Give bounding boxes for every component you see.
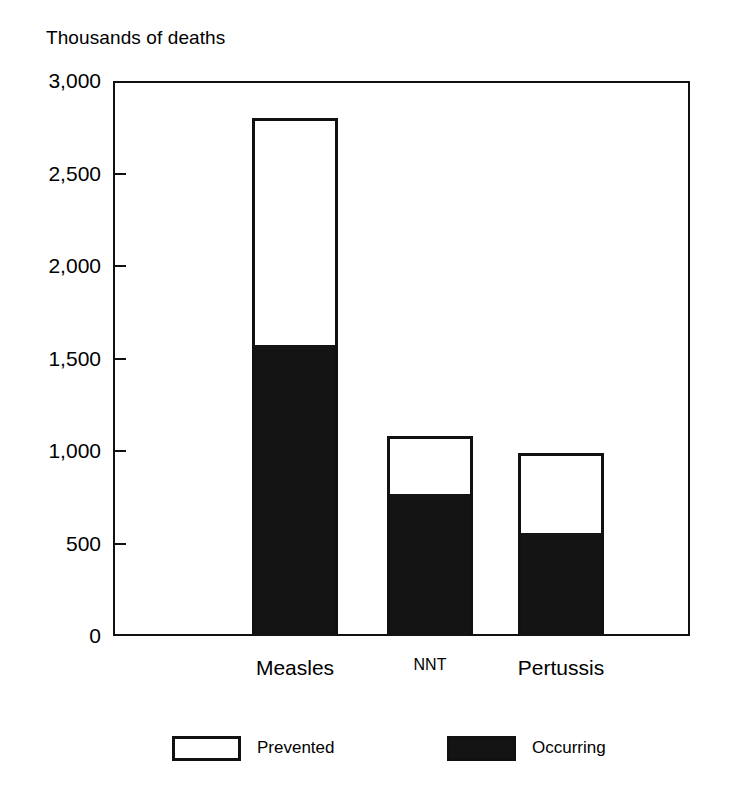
legend-swatch-prevented — [172, 736, 241, 761]
y-axis-tick-label: 0 — [5, 624, 101, 648]
bar-segment-occurring — [387, 494, 473, 636]
legend-item[interactable]: Prevented — [172, 731, 335, 765]
bar-segment-prevented — [387, 436, 473, 493]
y-axis-tick — [113, 543, 126, 545]
y-axis-tick-label: 500 — [5, 532, 101, 556]
y-axis-tick — [113, 265, 126, 267]
bar-segment-occurring — [518, 533, 604, 636]
chart-container: Thousands of deaths 3,0002,5002,0001,500… — [0, 0, 729, 792]
y-axis-tick-label: 3,000 — [5, 69, 101, 93]
y-axis-tick-label: 1,500 — [5, 347, 101, 371]
x-axis-category-label: NNT — [414, 656, 447, 674]
chart-legend: PreventedOccurring — [0, 731, 729, 771]
x-axis-category-label: Pertussis — [518, 656, 604, 680]
y-axis-tick — [113, 358, 126, 360]
bar-segment-prevented — [518, 453, 604, 533]
x-axis-category-label: Measles — [256, 656, 334, 680]
y-axis-tick — [113, 173, 126, 175]
bar-segment-occurring — [252, 345, 338, 636]
legend-label: Prevented — [257, 738, 335, 758]
y-axis-tick-label: 1,000 — [5, 439, 101, 463]
legend-label: Occurring — [532, 738, 606, 758]
y-axis-tick-label-group: 3,0002,5002,0001,5001,0005000 — [0, 0, 101, 792]
y-axis-tick-label: 2,000 — [5, 254, 101, 278]
legend-item[interactable]: Occurring — [447, 731, 606, 765]
bar-segment-prevented — [252, 118, 338, 345]
y-axis-tick — [113, 450, 126, 452]
y-axis-tick-label: 2,500 — [5, 162, 101, 186]
legend-swatch-occurring — [447, 736, 516, 761]
